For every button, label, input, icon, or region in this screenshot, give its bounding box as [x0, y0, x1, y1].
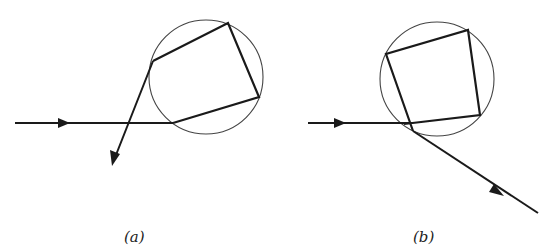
droplet-circle-a	[149, 20, 263, 134]
figure-b	[308, 22, 538, 213]
internal-path-a	[153, 23, 259, 123]
arrowhead-icon	[110, 150, 120, 166]
caption-b: (b)	[413, 228, 434, 246]
arrowhead-icon	[58, 118, 70, 128]
caption-a-text: (a)	[124, 228, 145, 246]
caption-b-text: (b)	[413, 228, 434, 246]
figure-a	[15, 20, 263, 166]
outgoing-ray-a	[114, 61, 153, 160]
ray-diagram	[0, 0, 547, 252]
caption-a: (a)	[124, 228, 145, 246]
outgoing-ray-b	[413, 131, 538, 213]
internal-path-b	[386, 30, 480, 131]
arrowhead-icon	[334, 118, 346, 128]
